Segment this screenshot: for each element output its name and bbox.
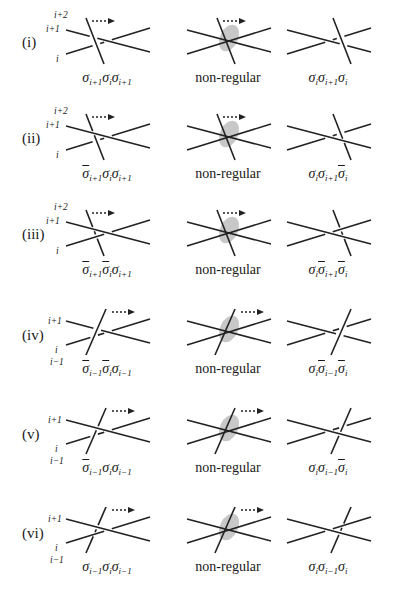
braid-strand xyxy=(287,234,325,246)
braid-strand xyxy=(287,126,371,148)
case-row-iii: (iii)i+2i+1iσi+1σiσi+1non-regularσiσi+1σ… xyxy=(0,196,399,292)
braid-diagram xyxy=(285,394,385,464)
braid-word-after: σiσi−1σi xyxy=(263,460,393,477)
arrow-head-icon xyxy=(257,507,264,513)
arrow-head-icon xyxy=(108,210,115,216)
braid-generator: σ xyxy=(112,166,119,181)
strand-index-label: i xyxy=(56,54,59,64)
generator-index: i+1 xyxy=(325,77,338,87)
braid-word-before: σi+1σiσi+1 xyxy=(42,262,172,279)
braid-strand xyxy=(66,126,150,148)
braid-strand xyxy=(112,517,150,529)
braid-diagram xyxy=(285,100,385,170)
braid-panel-after: σiσi+1σi xyxy=(285,100,385,196)
arrow-head-icon xyxy=(108,18,115,24)
moving-strand xyxy=(98,507,106,525)
braid-strand xyxy=(112,220,150,232)
case-row-i: (i)i+2i+1iσi+1σiσi+1non-regularσiσi+1σi xyxy=(0,4,399,100)
generator-index: i−1 xyxy=(89,566,102,576)
braid-diagram xyxy=(64,196,164,266)
braid-panel-before: σi−1σiσi−1 xyxy=(64,394,164,490)
braid-word-after: σiσi−1σi xyxy=(263,559,393,576)
moving-strand xyxy=(341,231,342,234)
braid-strand xyxy=(66,436,90,444)
braid-diagram xyxy=(185,100,285,170)
moving-strand xyxy=(344,239,351,256)
strand-index-label: i+1 xyxy=(48,514,62,524)
moving-strand xyxy=(86,430,96,454)
strand-index-label: i+1 xyxy=(48,316,62,326)
braid-diagram xyxy=(185,493,285,563)
generator-index: i xyxy=(345,77,348,87)
moving-strand xyxy=(333,18,351,64)
braid-generator: σ xyxy=(338,460,345,475)
braid-move-figure: (i)i+2i+1iσi+1σiσi+1non-regularσiσi+1σi(… xyxy=(0,0,399,599)
generator-index: i−1 xyxy=(89,467,102,477)
braid-word-before: σi+1σiσi+1 xyxy=(42,166,172,183)
case-label: (v) xyxy=(22,426,40,443)
braid-generator: σ xyxy=(318,361,325,376)
arrow-head-icon xyxy=(128,507,135,513)
case-label: (ii) xyxy=(22,130,40,147)
braid-generator: σ xyxy=(338,166,345,181)
arrow-head-icon xyxy=(239,18,246,24)
moving-strand xyxy=(95,529,96,532)
braid-strand xyxy=(112,124,150,136)
arrow-head-icon xyxy=(239,114,246,120)
braid-diagram xyxy=(185,295,285,365)
braid-strand xyxy=(66,519,150,541)
generator-index: i−1 xyxy=(89,368,102,378)
braid-panel-before: σi−1σiσi−1 xyxy=(64,493,164,589)
braid-strand xyxy=(344,124,371,132)
braid-panel-after: σiσi−1σi xyxy=(285,394,385,490)
braid-strand xyxy=(347,319,371,327)
generator-index: i+1 xyxy=(89,173,102,183)
braid-strand xyxy=(333,517,371,529)
braid-word-after: σiσi−1σi xyxy=(263,361,393,378)
braid-strand xyxy=(287,138,325,150)
braid-diagram xyxy=(185,196,285,266)
generator-index: i+1 xyxy=(119,77,132,87)
braid-word-before: σi+1σiσi+1 xyxy=(42,70,172,87)
generator-index: i xyxy=(345,566,348,576)
braid-word-before: σi−1σiσi−1 xyxy=(42,361,172,378)
braid-strand xyxy=(97,38,150,52)
braid-strand xyxy=(287,519,371,541)
braid-diagram xyxy=(64,394,164,464)
braid-strand xyxy=(287,333,325,345)
strand-index-label: i xyxy=(55,543,58,553)
braid-panel-after: σiσi+1σi xyxy=(285,4,385,100)
moving-strand xyxy=(86,114,93,131)
braid-panel-before: σi−1σiσi−1 xyxy=(64,295,164,391)
moving-strand xyxy=(86,309,106,355)
braid-generator: σ xyxy=(112,262,119,277)
moving-strand xyxy=(94,231,95,234)
braid-generator: σ xyxy=(318,262,325,277)
case-label: (vi) xyxy=(22,525,44,542)
braid-diagram xyxy=(64,100,164,170)
arrow-head-icon xyxy=(128,309,135,315)
braid-strand xyxy=(100,42,104,43)
braid-word-before: σi−1σiσi−1 xyxy=(42,559,172,576)
moving-strand xyxy=(333,210,340,227)
generator-index: i+1 xyxy=(325,269,338,279)
case-row-iv: (iv)i+1ii−1σi−1σiσi−1non-regularσiσi−1σi xyxy=(0,295,399,391)
braid-generator: σ xyxy=(338,70,345,85)
strand-index-label: i+1 xyxy=(46,24,60,34)
braid-strand xyxy=(347,46,371,52)
braid-diagram xyxy=(285,4,385,74)
braid-strand xyxy=(347,418,371,426)
generator-index: i xyxy=(345,368,348,378)
generator-index: i xyxy=(345,173,348,183)
braid-diagram xyxy=(185,394,285,464)
braid-generator: σ xyxy=(318,460,325,475)
generator-index: i−1 xyxy=(119,566,132,576)
moving-strand xyxy=(98,408,106,426)
moving-strand xyxy=(331,535,339,553)
case-row-ii: (ii)i+2i+1iσi+1σiσi+1non-regularσiσi+1σi xyxy=(0,100,399,196)
braid-panel-before: σi+1σiσi+1 xyxy=(64,196,164,292)
braid-strand xyxy=(98,333,104,335)
braid-strand xyxy=(333,428,339,430)
braid-word-after: σiσi+1σi xyxy=(263,166,393,183)
generator-index: i xyxy=(345,467,348,477)
